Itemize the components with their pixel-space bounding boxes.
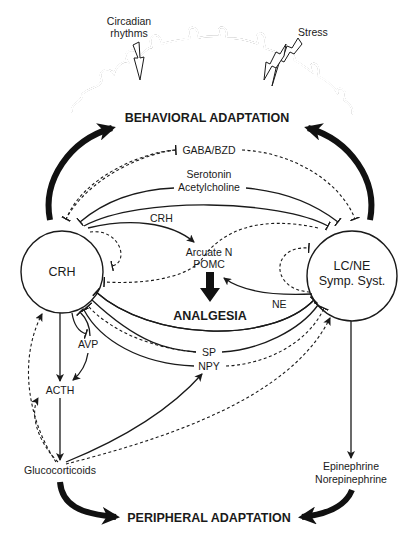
epinephrine-label: Epinephrine <box>323 460 379 472</box>
circadian-label: Circadian <box>107 15 152 27</box>
ne-label: NE <box>272 298 287 310</box>
gaba-bzd-path <box>66 150 176 220</box>
glucocorticoids-to-peripheral-arrow <box>60 482 116 517</box>
crh-edge-label: CRH <box>150 212 173 224</box>
gaba-bzd-label: GABA/BZD <box>182 144 236 156</box>
glucocorticoids-label: Glucocorticoids <box>24 464 96 476</box>
crh-to-arcuate-arrow <box>88 223 194 242</box>
rhythms-label: rhythms <box>110 27 147 39</box>
stress-label: Stress <box>298 26 328 38</box>
epinephrine-to-peripheral-arrow <box>302 490 352 517</box>
norepinephrine-label: Norepinephrine <box>315 473 387 485</box>
crh-lcne-lower-arc-2 <box>92 300 196 352</box>
analgesia-label: ANALGESIA <box>173 309 247 323</box>
glucocorticoid-to-lcne-dashed <box>66 318 330 464</box>
lcne-to-behavioral-arrow <box>308 128 371 220</box>
avp-to-acth-arrow <box>73 353 88 380</box>
arcuate-label: Arcuate N <box>186 246 233 258</box>
cortex-outline <box>72 27 353 114</box>
symp-syst-label: Symp. Syst. <box>319 274 386 288</box>
to-analgesia-arrow <box>200 272 220 302</box>
crh-node-label: CRH <box>48 265 75 279</box>
lcne-self-loop <box>280 248 310 292</box>
peripheral-adaptation-label: PERIPHERAL ADAPTATION <box>127 511 290 525</box>
ne-to-arcuate-arrow <box>224 278 312 294</box>
glucocorticoid-to-acth-feedback <box>35 398 58 462</box>
lcne-node-label: LC/NE <box>334 259 371 273</box>
glucocorticoid-to-npy-arrow <box>66 374 202 462</box>
sp-label: SP <box>202 346 216 358</box>
avp-label: AVP <box>78 338 98 350</box>
acetylcholine-path-right <box>246 188 338 222</box>
circadian-arrow-icon <box>133 42 144 80</box>
acetylcholine-label: Acetylcholine <box>178 181 240 193</box>
lcne-node: LC/NE Symp. Syst. <box>307 231 397 321</box>
pomc-label: POMC <box>193 258 225 270</box>
behavioral-adaptation-label: BEHAVIORAL ADAPTATION <box>125 111 290 125</box>
serotonin-label: Serotonin <box>187 168 232 180</box>
acth-label: ACTH <box>46 384 75 396</box>
crh-node: CRH <box>21 231 103 313</box>
stress-system-diagram: Circadian rhythms Stress BEHAVIORAL ADAP… <box>0 0 415 540</box>
npy-label: NPY <box>198 360 220 372</box>
